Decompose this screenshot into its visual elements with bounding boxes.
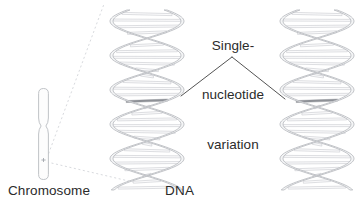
dna-rung (290, 62, 345, 65)
dna-rung (117, 50, 178, 53)
dna-rung (303, 180, 330, 184)
dna-rung (283, 87, 350, 89)
dna-rung (114, 155, 180, 158)
dna-rung (132, 111, 162, 115)
dna-helix-left (110, 10, 184, 190)
dna-rung (302, 111, 332, 115)
dna-rung (284, 162, 350, 165)
dna-rung (283, 56, 352, 58)
dna-rung (292, 12, 342, 15)
dna-rung (285, 93, 350, 96)
chromosome-outline (39, 89, 49, 180)
snv-label: Single- nucleotide variation (186, 5, 280, 186)
zoom-guide-top-line (47, 4, 104, 158)
dna-rung (283, 19, 351, 21)
diagram-illustration (0, 0, 356, 210)
dna-rung (284, 155, 350, 158)
snv-label-line-3: variation (186, 137, 280, 153)
dna-rung (133, 180, 160, 184)
dna-rung (122, 12, 172, 15)
dna-rung (300, 43, 333, 47)
dna-rung (114, 162, 180, 165)
dna-rung (123, 81, 171, 84)
snv-label-line-2: nucleotide (186, 87, 280, 103)
dna-rung (117, 118, 176, 121)
dna-rung (293, 81, 341, 84)
dna-rung (113, 56, 182, 58)
diagram-canvas: Chromosome DNA Single- nucleotide variat… (0, 0, 356, 210)
dna-rung (115, 25, 179, 28)
dna-rung (289, 130, 346, 133)
zoom-guide-bottom-line (47, 162, 133, 182)
dna-rung (115, 93, 180, 96)
dna-helix-right (280, 10, 354, 190)
dna-rung (124, 149, 169, 152)
chromosome-shape (39, 89, 49, 180)
dna-rung (283, 125, 352, 127)
chromosome-label: Chromosome (8, 183, 90, 199)
dna-rung (287, 118, 346, 121)
dna-rung (294, 149, 339, 152)
dna-rung (287, 50, 348, 53)
dna-rung (288, 186, 345, 189)
dna-rung (119, 130, 176, 133)
dna-rung (285, 25, 349, 28)
dna-rung (120, 62, 175, 65)
dna-rung (130, 43, 163, 47)
dna-rung (113, 125, 182, 127)
dna-rung (113, 87, 180, 89)
snv-label-line-1: Single- (186, 38, 280, 54)
dna-rung (113, 19, 181, 21)
